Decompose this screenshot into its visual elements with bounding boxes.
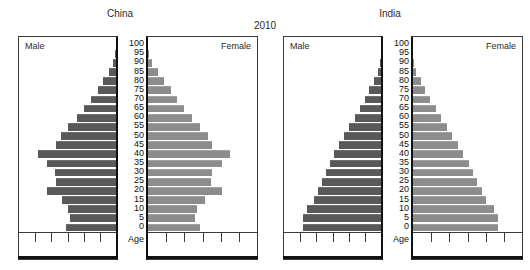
bar-male [109, 68, 116, 76]
bar-female [413, 141, 458, 149]
bar-female [148, 169, 212, 177]
bar-female [148, 123, 200, 131]
bar-female [148, 205, 197, 213]
axis-tick [239, 233, 240, 242]
bars-male-india [284, 40, 381, 232]
bar-male [113, 59, 116, 67]
x-axis-male-india [284, 232, 381, 259]
axis-tick [100, 233, 101, 242]
axis-tick [51, 233, 52, 242]
bars-male-china [19, 40, 116, 232]
bar-female [148, 178, 211, 186]
age-axis-caption: Age [393, 234, 409, 244]
bar-male [369, 86, 381, 94]
bar-female [148, 187, 222, 195]
bar-male [62, 196, 116, 204]
bar-male [378, 68, 381, 76]
axis-tick [68, 233, 69, 242]
bar-female [148, 196, 205, 204]
bar-male [330, 160, 381, 168]
bar-male [355, 114, 381, 122]
bar-female [413, 132, 452, 140]
bar-female [413, 160, 469, 168]
bar-female [413, 68, 416, 76]
bar-female [148, 68, 158, 76]
bar-male [318, 187, 381, 195]
age-tick-label: 90 [399, 57, 409, 66]
axis-tick [349, 233, 350, 242]
bar-male [115, 50, 116, 58]
x-axis-male-china [19, 232, 116, 259]
bar-female [413, 77, 421, 85]
bar-female [148, 96, 177, 104]
bar-male [374, 77, 381, 85]
bar-female [148, 86, 171, 94]
bar-male [38, 150, 116, 158]
axis-baseline [283, 256, 382, 259]
axis-baseline [412, 256, 523, 259]
bar-male [47, 187, 116, 195]
bar-male [70, 214, 116, 222]
bar-male [380, 59, 381, 67]
age-tick-label: 90 [134, 57, 144, 66]
bar-female [148, 224, 200, 232]
bar-male [326, 169, 381, 177]
bar-female [148, 150, 230, 158]
bar-female [413, 150, 463, 158]
axis-tick [84, 233, 85, 242]
age-axis-china: 1009590858075706560555045403530252015105… [118, 36, 146, 260]
axis-tick [203, 233, 204, 242]
age-tick-label: 0 [404, 222, 409, 231]
age-tick-label: 55 [399, 121, 409, 130]
bar-male [334, 150, 381, 158]
bar-male [77, 114, 116, 122]
bar-male [84, 105, 116, 113]
bar-male [103, 77, 116, 85]
bar-male [47, 160, 116, 168]
axis-tick [300, 233, 301, 242]
axis-tick [504, 233, 505, 242]
axis-tick [431, 233, 432, 242]
bar-female [148, 50, 149, 58]
bar-female [413, 178, 477, 186]
bar-female [148, 160, 222, 168]
axis-baseline [147, 256, 258, 259]
bar-female [413, 123, 447, 131]
axis-tick [221, 233, 222, 242]
bar-male [98, 86, 116, 94]
axis-tick [468, 233, 469, 242]
bars-female-china [148, 40, 257, 232]
axis-tick [316, 233, 317, 242]
age-tick-label: 55 [134, 121, 144, 130]
bar-male [56, 141, 116, 149]
bar-female [148, 141, 212, 149]
bar-female [413, 205, 494, 213]
bar-female [148, 132, 208, 140]
panel-male-india: Male [283, 36, 383, 260]
axis-tick [166, 233, 167, 242]
bar-male [360, 105, 381, 113]
bar-male [68, 123, 116, 131]
axis-tick [184, 233, 185, 242]
bar-male [339, 141, 381, 149]
bar-male [61, 132, 116, 140]
bar-female [413, 187, 482, 195]
bar-male [91, 96, 116, 104]
bars-female-india [413, 40, 522, 232]
bar-male [68, 205, 116, 213]
bar-female [413, 59, 414, 67]
bar-female [413, 224, 498, 232]
bar-male [303, 214, 381, 222]
age-tick-label: 0 [139, 222, 144, 231]
chart-title-india: India [330, 8, 450, 19]
bar-male [56, 178, 116, 186]
bar-male [55, 169, 116, 177]
pyramid-group-china: MaleFemale100959085807570656055504540353… [18, 36, 258, 260]
bar-female [413, 86, 425, 94]
x-axis-female-india [413, 232, 522, 259]
age-tick-label: 20 [399, 185, 409, 194]
pyramid-group-india: MaleFemale100959085807570656055504540353… [283, 36, 523, 260]
panel-female-china: Female [146, 36, 258, 260]
chart-year-title: 2010 [205, 20, 325, 31]
bar-female [413, 105, 436, 113]
